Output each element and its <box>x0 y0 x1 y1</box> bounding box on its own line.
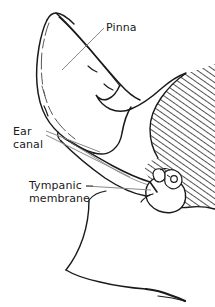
leader-line-pinna <box>62 28 104 70</box>
leader-lines <box>46 28 151 190</box>
label-ear-canal-line1: Ear <box>13 126 43 139</box>
label-tympanic-membrane-line2: membrane <box>29 193 90 206</box>
label-ear-canal: Ear canal <box>13 126 43 151</box>
label-tympanic-membrane-line1: Tympanic <box>29 180 90 193</box>
ear-anatomy-figure: Pinna Ear canal Tympanic membrane <box>0 0 215 307</box>
label-pinna-text: Pinna <box>106 21 137 34</box>
label-ear-canal-line2: canal <box>13 139 43 152</box>
ear-anatomy-drawing <box>0 0 215 307</box>
leader-line-ear-canal-lower <box>46 135 130 177</box>
label-pinna: Pinna <box>106 22 137 35</box>
label-tympanic-membrane: Tympanic membrane <box>29 180 90 205</box>
